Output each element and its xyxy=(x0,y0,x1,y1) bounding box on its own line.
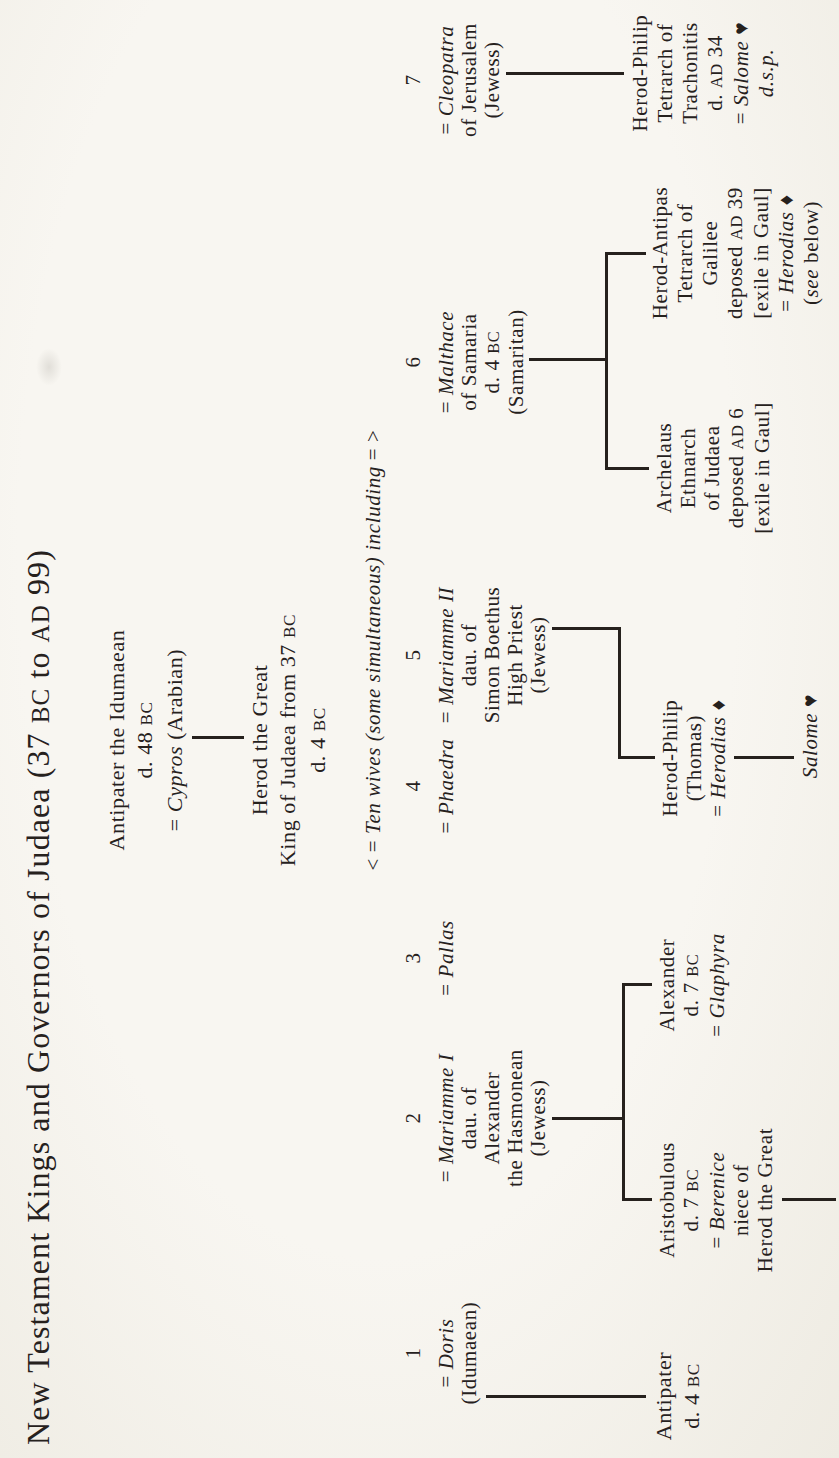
node-text-line: High Priest xyxy=(504,587,527,724)
node-text-line: (Samaritan) xyxy=(505,309,528,415)
node-text-line: Antipater the Idumaean xyxy=(103,630,131,851)
node-wife-5-mariamme-ii: 5= Mariamme IIdau. ofSimon BoethusHigh P… xyxy=(402,587,550,724)
connector-doris-to-antipater xyxy=(486,1395,646,1398)
node-text-line: (Jewess) xyxy=(527,587,550,724)
node-text-line: = Herodias ♦ xyxy=(774,187,799,320)
node-text-line: Herod the Great xyxy=(753,1128,777,1272)
node-alexander: Alexanderd. 7 BC= Glaphyra xyxy=(655,933,729,1037)
node-text-line: = Cleopatra xyxy=(435,23,458,137)
node-herod-antipas: Herod-AntipasTetrarch ofGalileedeposed A… xyxy=(648,187,824,320)
connector-antipater-to-herod xyxy=(192,736,244,739)
node-text-line: = Salome ♥ xyxy=(729,15,754,132)
rotated-genealogy-chart: New Testament Kings and Governors of Jud… xyxy=(0,0,839,1458)
connector-mariamme2-drop xyxy=(552,627,621,630)
book-page: New Testament Kings and Governors of Jud… xyxy=(0,0,839,1458)
node-text-line: the Hasmonean xyxy=(504,1049,527,1187)
node-text-line: (Thomas) xyxy=(682,699,706,817)
connector-mariamme2-bar xyxy=(618,627,621,759)
node-text-line: Trachonitis xyxy=(678,15,703,132)
node-text-line: = Berenice xyxy=(705,1128,729,1272)
node-text-line: Herod the Great xyxy=(246,614,274,866)
node-text-line: Antipater xyxy=(650,1352,678,1440)
connector-herodias-to-salome xyxy=(734,756,794,759)
node-text-line: Aristobulous xyxy=(655,1128,679,1272)
node-text-line: Archelaus xyxy=(652,402,676,533)
node-text-line: = Doris xyxy=(435,1302,458,1405)
node-text-line: dau. of xyxy=(458,587,481,724)
connector-mariamme1-bar xyxy=(622,983,625,1201)
node-text-line: of Judaea xyxy=(700,402,724,533)
node-text-line: (Jewess) xyxy=(527,1049,550,1187)
node-text-line: d. 48 BC xyxy=(131,630,161,851)
connector-aristobulous-continuation xyxy=(782,1198,836,1201)
wife-number: 6 xyxy=(402,309,425,415)
node-text-line: of Jerusalem xyxy=(458,23,481,137)
node-text-line: = Mariamme II xyxy=(435,587,458,724)
node-text-line: dau. of xyxy=(458,1049,481,1187)
node-ten-wives-note: < = Ten wives (some simultaneous) includ… xyxy=(360,429,386,870)
node-text-line: Ethnarch xyxy=(676,402,700,533)
node-text-line: Tetrarch of xyxy=(673,187,698,320)
node-herod-philip-trachonitis: Herod-PhilipTetrarch ofTrachonitisd. AD … xyxy=(628,15,779,132)
node-text-line: niece of xyxy=(729,1128,753,1272)
node-text-line: d. 7 BC xyxy=(679,933,705,1037)
node-text-line: Galilee xyxy=(698,187,723,320)
node-herod-the-great: Herod the GreatKing of Judaea from 37 BC… xyxy=(246,614,334,866)
node-herod-philip-thomas: Herod-Philip(Thomas)= Herodias ♦ xyxy=(658,699,730,817)
wife-number: 5 xyxy=(402,587,425,724)
node-wife-3-pallas: 3= Pallas xyxy=(402,920,458,996)
node-wife-2-mariamme-i: 2= Mariamme Idau. ofAlexanderthe Hasmone… xyxy=(402,1049,550,1187)
node-text-line: Salome ♥ xyxy=(798,694,822,778)
node-text-line: < = Ten wives (some simultaneous) includ… xyxy=(360,429,386,870)
node-salome-daughter: Salome ♥ xyxy=(798,694,822,778)
node-text-line: Alexander xyxy=(655,933,679,1037)
node-text-line: d. AD 34 xyxy=(703,15,729,132)
node-text-line: = Glaphyra xyxy=(705,933,729,1037)
connector-mariamme1-drop xyxy=(552,1117,625,1120)
wife-number: 7 xyxy=(402,23,425,137)
node-text-line: [exile in Gaul] xyxy=(750,402,774,533)
node-antipater-idumaean: Antipater the Idumaeand. 48 BC= Cypros (… xyxy=(103,630,189,851)
node-text-line: d. 7 BC xyxy=(679,1128,705,1272)
connector-malthace-stub-archelaus xyxy=(605,467,649,470)
node-text-line: (Jewess) xyxy=(481,23,504,137)
node-text-line: King of Judaea from 37 BC xyxy=(274,614,304,866)
connector-mariamme1-stub-aristobulous xyxy=(622,1198,652,1201)
connector-cleopatra-drop xyxy=(506,72,624,75)
node-text-line: = Herodias ♦ xyxy=(706,699,730,817)
node-text-line: d. 4 BC xyxy=(678,1352,708,1440)
wife-number: 3 xyxy=(402,920,425,996)
node-text-line: d. 4 BC xyxy=(304,614,334,866)
node-text-line: [exile in Gaul] xyxy=(749,187,774,320)
node-text-line: = Pallas xyxy=(435,920,458,996)
node-text-line: (Idumaean) xyxy=(458,1302,481,1405)
node-text-line: (see below) xyxy=(799,187,824,320)
connector-malthace-bar xyxy=(605,252,608,470)
node-text-line: Herod-Antipas xyxy=(648,187,673,320)
node-son-antipater: Antipaterd. 4 BC xyxy=(650,1352,708,1440)
connector-mariamme1-stub-alexander xyxy=(622,983,652,986)
node-text-line: deposed AD 39 xyxy=(723,187,749,320)
wife-number: 4 xyxy=(402,739,425,834)
page-title: New Testament Kings and Governors of Jud… xyxy=(20,549,57,1445)
node-wife-4-phaedra: 4= Phaedra xyxy=(402,739,458,834)
node-text-line: d.s.p. xyxy=(754,15,779,132)
node-wife-7-cleopatra: 7= Cleopatraof Jerusalem(Jewess) xyxy=(402,23,504,137)
node-aristobulous: Aristobulousd. 7 BC= Bereniceniece ofHer… xyxy=(655,1128,777,1272)
node-wife-6-malthace: 6= Malthaceof Samariad. 4 BC(Samaritan) xyxy=(402,309,528,415)
connector-malthace-drop xyxy=(529,358,608,361)
connector-malthace-stub-antipas xyxy=(605,252,646,255)
node-wife-1-doris: 1= Doris(Idumaean) xyxy=(402,1302,481,1405)
wife-number: 2 xyxy=(402,1049,425,1187)
node-text-line: Alexander xyxy=(481,1049,504,1187)
node-text-line: Herod-Philip xyxy=(628,15,653,132)
node-text-line: d. 4 BC xyxy=(481,309,505,415)
node-text-line: Simon Boethus xyxy=(481,587,504,724)
connector-mariamme2-stub-thomas xyxy=(618,756,655,759)
node-text-line: = Malthace xyxy=(435,309,458,415)
node-archelaus: ArchelausEthnarchof Judaeadeposed AD 6[e… xyxy=(652,402,774,533)
node-text-line: = Cypros (Arabian) xyxy=(161,630,189,851)
node-text-line: Tetrarch of xyxy=(653,15,678,132)
node-text-line: = Phaedra xyxy=(435,739,458,834)
node-text-line: = Mariamme I xyxy=(435,1049,458,1187)
